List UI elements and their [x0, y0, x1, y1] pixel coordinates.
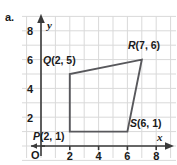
x-tick-2: 2 — [67, 150, 73, 162]
y-tick-2: 2 — [27, 112, 33, 124]
vertex-label-s: S(6, 1) — [130, 117, 162, 129]
coordinate-plane-figure: a. — [0, 0, 177, 165]
x-axis-label: x — [156, 131, 163, 143]
x-tick-8: 8 — [153, 150, 159, 162]
x-tick-4: 4 — [96, 150, 103, 162]
y-tick-6: 6 — [27, 54, 33, 66]
vertex-label-q: Q(2, 5) — [43, 54, 76, 66]
x-axis-left-arrowhead — [31, 143, 37, 149]
x-axis-arrowhead — [165, 142, 174, 150]
y-axis-label: y — [45, 19, 52, 31]
y-tick-4: 4 — [27, 83, 34, 95]
graph-svg: y x O 2 4 6 8 2 4 6 8 Q(2, 5) R(7, 6) S(… — [0, 0, 177, 165]
x-tick-6: 6 — [124, 150, 130, 162]
y-axis-arrowhead — [37, 14, 45, 23]
vertex-label-p: P(2, 1) — [33, 130, 65, 142]
origin-label: O — [31, 149, 40, 161]
vertex-label-r: R(7, 6) — [128, 39, 160, 51]
y-tick-8: 8 — [27, 25, 33, 37]
